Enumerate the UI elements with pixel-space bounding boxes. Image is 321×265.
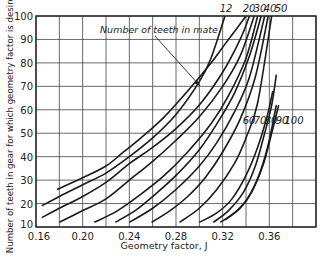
series-label-100: 100 [284,115,303,126]
y-tick-label: 30 [20,175,33,186]
y-tick-label: 70 [20,81,33,92]
annotation-arrow [155,36,200,86]
series-curve-60 [115,16,261,222]
geometry-factor-chart: 0.160.200.240.280.320.36 102030405060708… [0,0,321,265]
series-label-12: 12 [220,3,233,14]
x-axis-label: Geometry factor, J [120,240,207,251]
y-tick-label: 40 [20,152,33,163]
annotation-number-of-teeth-in-mate: Number of teeth in mate [100,24,218,35]
y-tick-label: 100 [14,11,33,22]
y-tick-label: 60 [20,105,33,116]
x-tick-label: 0.32 [212,231,234,242]
y-tick-label: 20 [20,199,33,210]
y-tick-labels: 102030405060708090100 [14,11,33,230]
side-series-labels: 60708090100 [243,115,304,126]
y-tick-label: 10 [20,219,33,230]
series-curve-20 [57,16,246,189]
x-tick-label: 0.36 [258,231,280,242]
y-tick-label: 90 [20,34,33,45]
y-tick-label: 50 [20,128,33,139]
series-curve-40 [59,16,254,222]
x-tick-label: 0.16 [28,231,50,242]
series-label-50: 50 [275,3,288,14]
y-axis-label: Number of teeth in gear for which geomet… [5,0,15,253]
x-tick-label: 0.20 [72,231,94,242]
top-series-labels: 1220304050 [220,3,288,14]
y-tick-label: 80 [20,58,33,69]
